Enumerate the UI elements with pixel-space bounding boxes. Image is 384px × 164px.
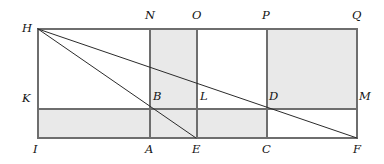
figure-canvas (0, 0, 384, 164)
shaded-region-cell-P-Q-top (267, 29, 357, 109)
vertex-label-K: K (22, 93, 31, 105)
vertex-label-H: H (22, 23, 32, 35)
vertex-label-D: D (269, 91, 278, 103)
vertex-label-F: F (353, 144, 361, 156)
vertex-label-Q: Q (352, 10, 361, 22)
vertex-label-P: P (262, 10, 270, 22)
vertex-label-O: O (192, 10, 201, 22)
vertex-label-I: I (33, 144, 38, 156)
vertex-label-N: N (145, 10, 155, 22)
vertex-label-E: E (192, 144, 200, 156)
vertex-label-C: C (262, 144, 271, 156)
shaded-region-strip-I-C-bottom (38, 109, 267, 138)
vertex-label-A: A (145, 144, 153, 156)
geometry-figure: HNOPQKBLDMIAECF (0, 0, 384, 164)
vertex-label-M: M (359, 91, 371, 103)
vertex-label-L: L (200, 91, 208, 103)
vertex-label-B: B (153, 91, 161, 103)
